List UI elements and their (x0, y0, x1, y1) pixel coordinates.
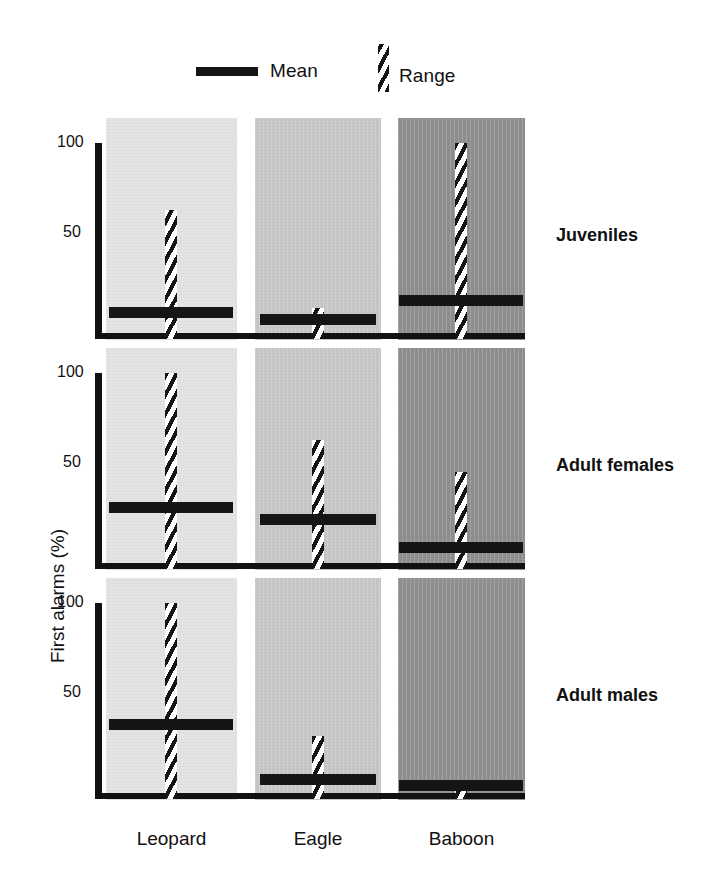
column-texture (398, 578, 525, 800)
legend-label-mean: Mean (270, 60, 318, 82)
x-axis-category-labels: Leopard Eagle Baboon (0, 828, 720, 864)
range-bar-leopard (165, 373, 177, 569)
y-tick-label-100: 100 (57, 363, 84, 381)
mean-bar-eagle (260, 774, 376, 785)
x-category-label-baboon: Baboon (398, 828, 525, 850)
y-tick-label-50: 50 (63, 223, 81, 241)
y-tick-label-100: 100 (57, 593, 84, 611)
range-bar-baboon (455, 143, 467, 339)
y-tick-label-100: 100 (57, 133, 84, 151)
y-axis-line (95, 143, 102, 333)
range-bar-eagle (312, 440, 324, 570)
panel-adult-females: 100 50 Adult females (0, 373, 720, 563)
mean-bar-leopard (109, 719, 233, 730)
panel-label-adult-males: Adult males (556, 685, 658, 706)
mean-swatch-icon (196, 67, 258, 76)
y-axis-line (95, 603, 102, 793)
panel-adult-males: 100 50 Adult males (0, 603, 720, 793)
range-bar-leopard (165, 210, 177, 340)
legend-item-range: Range (378, 60, 456, 92)
chart-legend: Mean Range (0, 52, 720, 104)
column-background-baboon (398, 578, 525, 800)
panel-label-juveniles: Juveniles (556, 225, 638, 246)
legend-label-range: Range (399, 65, 456, 87)
mean-bar-eagle (260, 514, 376, 525)
range-bar-baboon (455, 472, 467, 569)
panel-label-adult-females: Adult females (556, 455, 674, 476)
x-category-label-eagle: Eagle (255, 828, 381, 850)
panel-juveniles: 100 50 Juveniles (0, 143, 720, 333)
range-bar-eagle (312, 736, 324, 799)
mean-bar-baboon (399, 542, 523, 553)
legend-item-mean: Mean (196, 60, 318, 82)
range-bar-leopard (165, 603, 177, 799)
column-texture (255, 118, 381, 340)
chart-figure: Mean Range First alarms (%) 100 50 Juven… (0, 0, 720, 889)
y-axis-line (95, 373, 102, 563)
range-swatch-icon (378, 44, 389, 92)
mean-bar-leopard (109, 307, 233, 318)
mean-bar-leopard (109, 502, 233, 513)
mean-bar-baboon (399, 780, 523, 791)
x-category-label-leopard: Leopard (106, 828, 237, 850)
mean-bar-baboon (399, 295, 523, 306)
y-tick-label-50: 50 (63, 683, 81, 701)
y-tick-label-50: 50 (63, 453, 81, 471)
mean-bar-eagle (260, 314, 376, 325)
column-background-eagle (255, 118, 381, 340)
